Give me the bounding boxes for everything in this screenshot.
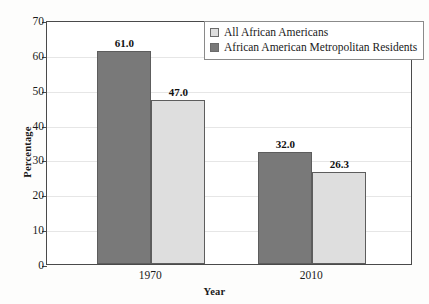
y-axis-tick-label: 0 — [14, 259, 44, 271]
bar[interactable] — [258, 152, 312, 264]
y-axis-tick-label: 10 — [14, 224, 44, 236]
y-axis-tick-label: 40 — [14, 120, 44, 132]
y-axis-tick-label: 30 — [14, 154, 44, 166]
bar[interactable] — [97, 51, 151, 264]
x-axis-tick-label: 2010 — [300, 269, 323, 281]
bar-value-label: 61.0 — [115, 37, 134, 49]
bar-value-label: 47.0 — [169, 86, 188, 98]
x-axis-title: Year — [0, 286, 429, 297]
chart-legend: All African Americans African American M… — [204, 21, 424, 60]
bar-chart-figure: Percentage 61.047.032.026.3 All African … — [0, 0, 429, 304]
bar[interactable] — [151, 100, 205, 264]
y-axis-tick-label: 20 — [14, 189, 44, 201]
y-axis-tick-label: 60 — [14, 50, 44, 62]
y-axis-tick-label: 50 — [14, 85, 44, 97]
legend-swatch-icon-dark — [210, 43, 219, 52]
bar-value-label: 26.3 — [330, 158, 349, 170]
legend-label: African American Metropolitan Residents — [224, 41, 417, 54]
legend-item-all-african-americans[interactable]: All African Americans — [210, 25, 417, 40]
y-axis-title: Percentage — [22, 126, 33, 177]
y-axis-tick-label: 70 — [14, 15, 44, 27]
legend-swatch-icon-light — [210, 28, 219, 37]
bar-value-label: 32.0 — [276, 138, 295, 150]
bar[interactable] — [312, 172, 366, 264]
legend-label: All African Americans — [224, 26, 328, 39]
legend-item-metropolitan-residents[interactable]: African American Metropolitan Residents — [210, 40, 417, 55]
x-axis-tick-label: 1970 — [139, 269, 162, 281]
